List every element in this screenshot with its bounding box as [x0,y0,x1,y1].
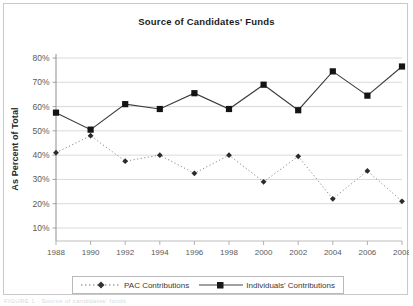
svg-text:1996: 1996 [186,248,204,257]
svg-text:70%: 70% [32,77,49,87]
data-point [191,90,197,96]
x-axis-tick-labels: 1988199019921994199619982000200220042006… [47,248,409,257]
data-point [88,133,94,139]
legend-label-individuals: Individuals' Contributions [246,281,335,290]
data-point [330,68,336,74]
data-series [53,63,405,204]
svg-text:80%: 80% [32,53,49,63]
legend-item-individuals: Individuals' Contributions [199,280,335,290]
legend-item-pac: PAC Contributions [81,280,189,290]
svg-text:2004: 2004 [324,248,342,257]
svg-text:20%: 20% [32,199,49,209]
data-point [157,106,163,112]
svg-text:2006: 2006 [359,248,377,257]
data-point [192,170,198,176]
svg-text:1992: 1992 [116,248,134,257]
square-marker [199,280,243,290]
footer-artifact: FIGURE 1 · Source of candidates' funds [4,299,184,304]
svg-text:1994: 1994 [151,248,169,257]
svg-text:60%: 60% [32,102,49,112]
data-point [226,106,232,112]
data-point [53,110,59,116]
data-point [261,82,267,88]
data-point [295,107,301,113]
data-point [122,101,128,107]
svg-text:1998: 1998 [220,248,238,257]
legend-label-pac: PAC Contributions [124,281,189,290]
svg-text:1988: 1988 [47,248,65,257]
data-point [122,158,128,164]
svg-text:10%: 10% [32,223,49,233]
data-point [157,152,163,158]
svg-text:50%: 50% [32,126,49,136]
data-point [364,93,370,99]
data-point [399,63,405,69]
svg-text:40%: 40% [32,150,49,160]
plot-area: 10%20%30%40%50%60%70%80% 198819901992199… [4,4,409,296]
chart-container: Source of Candidates' Funds As Percent o… [3,3,408,295]
chart-legend: PAC Contributions Individuals' Contribut… [72,276,344,294]
data-point [226,152,232,158]
data-point [365,168,371,174]
svg-text:2002: 2002 [289,248,307,257]
svg-text:30%: 30% [32,174,49,184]
svg-text:1990: 1990 [82,248,100,257]
svg-text:2008: 2008 [393,248,409,257]
y-axis-tick-labels: 10%20%30%40%50%60%70%80% [32,53,49,233]
diamond-marker [81,280,121,290]
svg-text:2000: 2000 [255,248,273,257]
data-point [88,127,94,133]
